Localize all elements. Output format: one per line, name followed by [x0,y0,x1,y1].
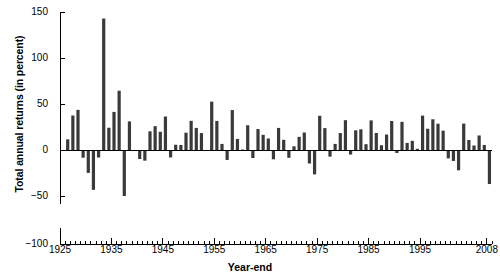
bar [154,126,157,150]
bar [411,141,414,150]
bar [236,139,239,150]
bar [174,145,177,150]
annual-returns-bar-chart: Total annual returns (in percent) Year-e… [0,0,500,280]
bar [328,150,331,157]
bar [148,131,151,150]
bar [282,140,285,150]
bar [442,131,445,150]
bar [128,121,131,150]
bar [200,133,203,150]
bar [107,128,110,150]
bar [457,150,460,170]
bar [390,121,393,150]
bar [303,133,306,150]
bar [478,135,481,150]
bar [447,150,450,158]
bar [436,124,439,150]
bar [215,121,218,150]
bar [195,128,198,150]
bar [143,150,146,161]
bar [462,124,465,150]
bar [318,116,321,150]
bar [349,150,352,155]
bar [400,122,403,150]
bar [359,129,362,150]
bar [179,145,182,150]
bar [71,116,74,151]
bar [380,145,383,150]
bar [364,144,367,150]
bar [267,139,270,151]
bar [472,145,475,150]
bar [138,150,141,159]
bar [308,150,311,164]
bar [339,133,342,150]
bar [92,150,95,190]
bar [287,150,290,158]
bar [112,112,115,150]
bar [385,135,388,150]
bar [102,19,105,150]
bar [210,102,213,150]
bar [421,116,424,150]
bar [298,137,301,150]
bar [375,133,378,150]
bar [226,150,229,160]
bar [82,150,85,158]
bar [406,143,409,150]
plot-area [0,0,500,280]
bar [251,150,254,158]
bar [256,129,259,150]
bar [184,133,187,150]
bar [231,110,234,150]
bar [97,150,100,158]
bar [169,150,172,157]
bar-series [66,19,491,196]
bar [123,150,126,196]
bar [488,150,491,184]
bar [87,150,90,173]
bar [354,130,357,150]
bar [277,128,280,150]
bar [323,128,326,150]
bar [426,129,429,150]
bar [467,140,470,150]
bar [190,121,193,150]
bar [118,91,121,150]
bar [452,150,455,161]
bar [76,110,79,150]
bar [220,144,223,150]
axis-lines [60,12,492,244]
bar [370,120,373,150]
bar [483,145,486,150]
bar [262,135,265,150]
bar [334,144,337,150]
bar [344,120,347,150]
bar [246,125,249,150]
bar [159,132,162,150]
bar [292,146,295,150]
bar [66,139,69,150]
bar [164,117,167,150]
bar [272,150,275,159]
bar [431,119,434,150]
bar [313,150,316,174]
